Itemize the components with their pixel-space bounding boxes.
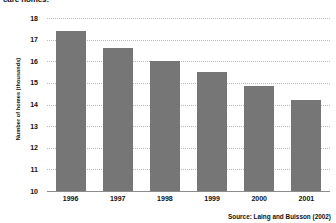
y-axis-tick-label: 11 <box>0 166 38 173</box>
y-axis-tick-label: 12 <box>0 144 38 151</box>
bar-slot <box>103 18 133 191</box>
x-axis-tick-label: 1996 <box>47 195 94 203</box>
bar-chart-figure: care homes: Number of homes (thousands) … <box>0 0 336 223</box>
gridline <box>47 191 330 192</box>
bar <box>103 48 133 191</box>
plot-area: 181716151413121110 199619971998199920002… <box>47 18 330 191</box>
x-axis-tick-label: 2000 <box>236 195 283 203</box>
bar <box>150 61 180 191</box>
x-axis-tick-label: 1997 <box>94 195 141 203</box>
x-axis-tick-label: 1999 <box>189 195 236 203</box>
bar <box>197 72 227 191</box>
bar-slot <box>150 18 180 191</box>
bar-slot <box>197 18 227 191</box>
y-axis-tick-label: 14 <box>0 101 38 108</box>
bar-slot <box>244 18 274 191</box>
y-axis-tick-label: 13 <box>0 123 38 130</box>
y-axis-tick-label: 18 <box>0 15 38 22</box>
bar-slot <box>56 18 86 191</box>
bar-slot <box>291 18 321 191</box>
y-axis-tick-label: 16 <box>0 58 38 65</box>
bar <box>56 31 86 191</box>
bar <box>291 100 321 191</box>
y-axis-tick-label: 15 <box>0 79 38 86</box>
chart-title: care homes: <box>3 0 49 3</box>
x-axis-tick-label: 2001 <box>283 195 330 203</box>
source-note: Source: Laing and Buisson (2002) <box>228 213 331 220</box>
y-axis-tick-label: 17 <box>0 36 38 43</box>
x-axis-tick-label: 1998 <box>141 195 188 203</box>
bars-layer <box>47 18 330 191</box>
y-axis-tick-label: 10 <box>0 188 38 195</box>
bar <box>244 86 274 191</box>
